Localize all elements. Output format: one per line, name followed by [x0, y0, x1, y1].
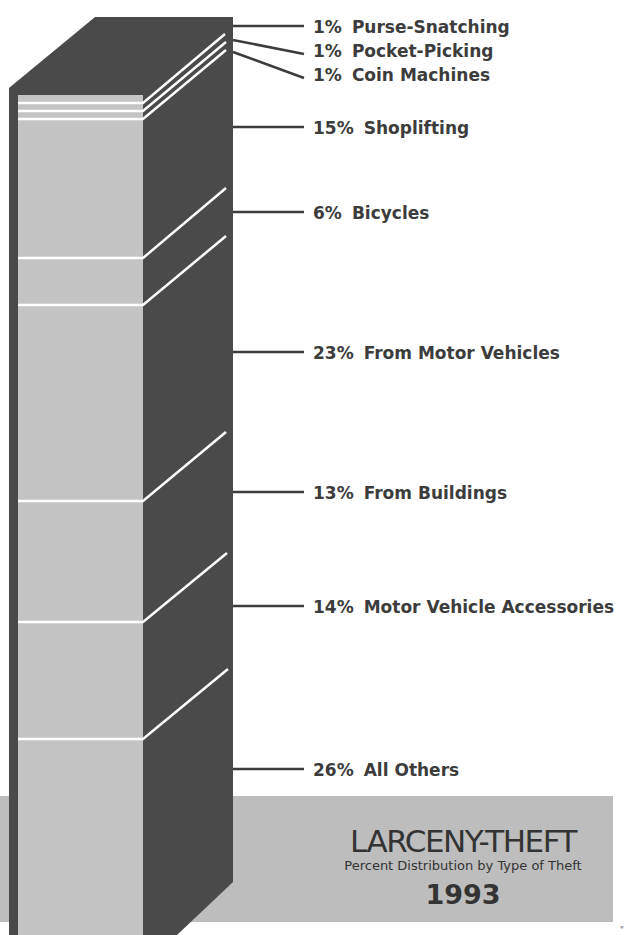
chart-year: 1993	[425, 879, 500, 910]
leader-lines	[233, 26, 304, 769]
leader-pocket-picking	[233, 40, 304, 54]
label-from-motor-vehicles: 23%From Motor Vehicles	[313, 343, 560, 363]
category-labels: 1%Purse-Snatching 1%Pocket-Picking 1%Coi…	[313, 17, 614, 780]
column-front-face	[18, 95, 143, 935]
larceny-theft-chart: 1%Purse-Snatching 1%Pocket-Picking 1%Coi…	[0, 0, 628, 935]
label-from-buildings: 13%From Buildings	[313, 483, 507, 503]
corner-mark: "	[620, 926, 624, 935]
chart-title: LARCENY-THEFT	[350, 823, 578, 859]
label-all-others: 26%All Others	[313, 760, 459, 780]
label-motor-vehicle-accessories: 14%Motor Vehicle Accessories	[313, 597, 614, 617]
label-coin-machines: 1%Coin Machines	[313, 65, 490, 85]
label-pocket-picking: 1%Pocket-Picking	[313, 41, 493, 61]
label-shoplifting: 15%Shoplifting	[313, 118, 469, 138]
chart-subtitle: Percent Distribution by Type of Theft	[344, 858, 581, 873]
label-purse-snatching: 1%Purse-Snatching	[313, 17, 510, 37]
leader-coin-machines	[233, 52, 304, 78]
label-bicycles: 6%Bicycles	[313, 203, 429, 223]
